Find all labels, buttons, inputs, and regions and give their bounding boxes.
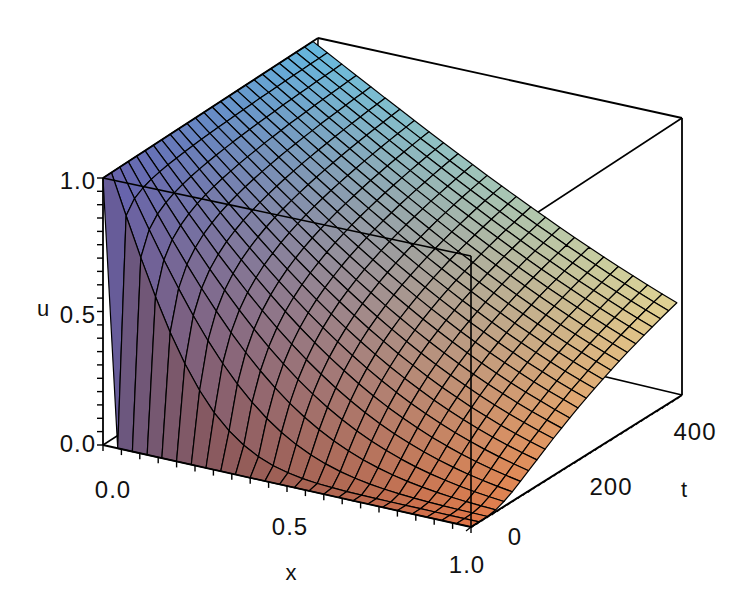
t-tick-label-0: 0	[508, 523, 522, 550]
t-tick-label-200: 200	[589, 473, 632, 500]
x-tick-label-0: 0.0	[95, 476, 131, 503]
u-tick-label-05: 0.5	[60, 301, 96, 328]
t-axis-label: t	[681, 477, 687, 502]
u-axis-label: u	[37, 296, 49, 321]
surface-mesh	[103, 41, 677, 527]
t-tick-label-400: 400	[673, 418, 716, 445]
u-tick-label-1: 1.0	[60, 167, 96, 194]
x-axis-label: x	[286, 560, 297, 585]
x-tick-label-1: 1.0	[449, 551, 485, 578]
x-tick-label-05: 0.5	[272, 513, 308, 540]
surface-plot: 1.0 0.5 0.0 u 0.0 0.5 1.0 x 0 200 400 t	[0, 0, 748, 613]
t-axis-tick	[466, 527, 471, 531]
u-tick-label-0: 0.0	[60, 430, 96, 457]
